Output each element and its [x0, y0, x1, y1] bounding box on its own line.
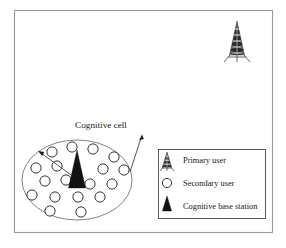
secondary-user-node: [85, 179, 95, 189]
secondary-user-node: [107, 179, 117, 189]
secondary-user-node: [45, 206, 55, 216]
secondary-user-node: [50, 192, 60, 202]
legend-label-primary-user: Primary user: [183, 156, 226, 165]
secondary-user-node: [27, 190, 37, 200]
secondary-user-node: [47, 147, 57, 157]
legend-label-secondary-user: Secondary user: [183, 179, 235, 188]
secondary-user-node: [109, 152, 119, 162]
secondary-user-node: [88, 144, 98, 154]
secondary-user-node: [73, 192, 83, 202]
secondary-user-node: [31, 163, 41, 173]
cognitive-cell-label: Cognitive cell: [75, 120, 127, 130]
legend: Primary user Secondary user Cognitive ba…: [159, 150, 266, 219]
secondary-user-node: [98, 164, 108, 174]
secondary-user-node: [95, 192, 105, 202]
secondary-user-node: [76, 207, 86, 217]
secondary-user-node: [67, 142, 77, 152]
secondary-user-circle-icon: [162, 178, 171, 187]
figure-root: Cognitive cell Primary user Secondary us…: [0, 0, 286, 248]
diagram-canvas: Cognitive cell Primary user Secondary us…: [0, 0, 286, 248]
legend-label-cognitive-base-station: Cognitive base station: [183, 202, 258, 211]
secondary-user-node: [119, 165, 129, 175]
secondary-user-node: [40, 176, 50, 186]
